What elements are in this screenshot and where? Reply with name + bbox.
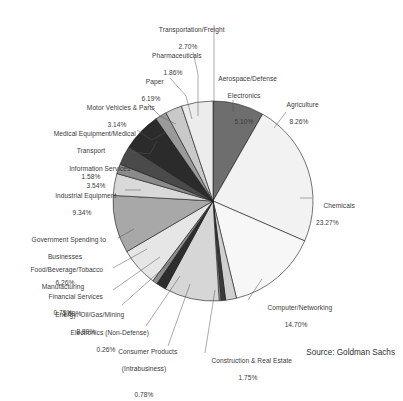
pie-label-food-beverage-tobacco-name: Food/Beverage/Tobacco — [31, 266, 104, 273]
pie-label-pharmaceuticals-name: Pharmaceuticals — [152, 52, 202, 59]
pie-label-motor-vehicles-name: Motor Vehicles & Parts — [87, 104, 155, 111]
pie-label-consumer-products-name: Consumer Products — [118, 348, 177, 355]
pie-label-consumer-products: Consumer Products (Intrabusiness) 0.78% — [96, 339, 192, 401]
pie-label-construction-real-estate-value: 1.75% — [186, 374, 310, 383]
pie-label-aerospace-defense-name: Aerospace/Defense — [218, 75, 277, 82]
pie-label-aerospace-defense: Aerospace/Defense Electronics 5.10% — [196, 66, 292, 143]
pie-label-information-services-name: Information Services — [69, 165, 130, 172]
pie-label-energy-oil-gas-mining-name: Energy: Oil/Gas/Mining — [55, 311, 124, 318]
pie-label-consumer-products-value: 0.78% — [96, 391, 192, 400]
pie-label-chemicals-value: 23.27% — [316, 219, 392, 228]
pie-label-medical-equipment-name: Medical Equipment/Medical — [54, 130, 136, 137]
pie-label-computer-networking-value: 14.70% — [245, 321, 347, 330]
source-note: Source: Goldman Sachs — [306, 348, 395, 357]
pie-label-chemicals: Chemicals 23.27% — [316, 193, 392, 245]
pie-label-industrial-equipment-name: Industrial Equipment — [55, 192, 116, 199]
pie-label-consumer-products-name2: (Intrabusiness) — [96, 365, 192, 374]
pie-label-construction-real-estate: Construction & Real Estate 1.75% — [186, 348, 310, 400]
pie-label-electronics-non-defense-name: Electronics (Non-Defense) — [70, 329, 149, 336]
pie-label-construction-real-estate-name: Construction & Real Estate — [212, 357, 292, 364]
pie-label-industrial-equipment-value: 9.34% — [28, 209, 136, 218]
pie-label-aerospace-defense-value: 5.10% — [196, 118, 292, 127]
pie-label-computer-networking-name: Computer/Networking — [267, 304, 332, 311]
pie-label-financial-services-name: Financial Services — [49, 293, 103, 300]
pie-label-aerospace-defense-name2: Electronics — [196, 92, 292, 101]
pie-label-paper-name: Paper — [146, 78, 164, 85]
pie-label-medical-equipment-name2: Transport — [22, 147, 160, 156]
pie-label-chemicals-name: Chemicals — [324, 202, 355, 209]
pie-label-transportation-freight-name: Transportation/Freight — [159, 26, 225, 33]
pie-label-computer-networking: Computer/Networking 14.70% — [245, 295, 347, 347]
pie-label-government-spending-name: Government Spending to — [32, 236, 106, 243]
